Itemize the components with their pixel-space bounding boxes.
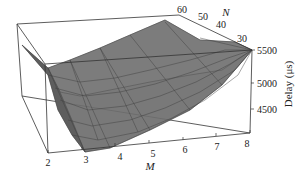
m-tick-6: 6 [183,144,188,155]
z-axis-labels: 5500 5000 4500 Delay (μs) [257,45,295,115]
surface-plot: 2 3 4 5 6 7 8 M 60 50 40 30 N 5500 5000 … [0,0,307,178]
m-tick-8: 8 [245,138,250,149]
n-axis-title: N [221,6,230,18]
z-tick-5000: 5000 [257,78,277,89]
z-tick-4500: 4500 [257,104,277,115]
m-tick-5: 5 [151,148,156,159]
n-tick-40: 40 [216,19,226,30]
m-tick-3: 3 [84,154,89,165]
m-axis-title: M [144,160,155,172]
surface [22,20,252,152]
z-tick-5500: 5500 [257,45,277,56]
n-tick-50: 50 [198,11,208,22]
z-axis-title: Delay (μs) [282,60,295,107]
plot-canvas: 2 3 4 5 6 7 8 M 60 50 40 30 N 5500 5000 … [0,0,307,178]
m-tick-4: 4 [118,151,123,162]
n-tick-60: 60 [177,4,187,15]
n-tick-30: 30 [237,33,247,44]
m-tick-7: 7 [215,141,220,152]
m-tick-2: 2 [46,157,51,168]
